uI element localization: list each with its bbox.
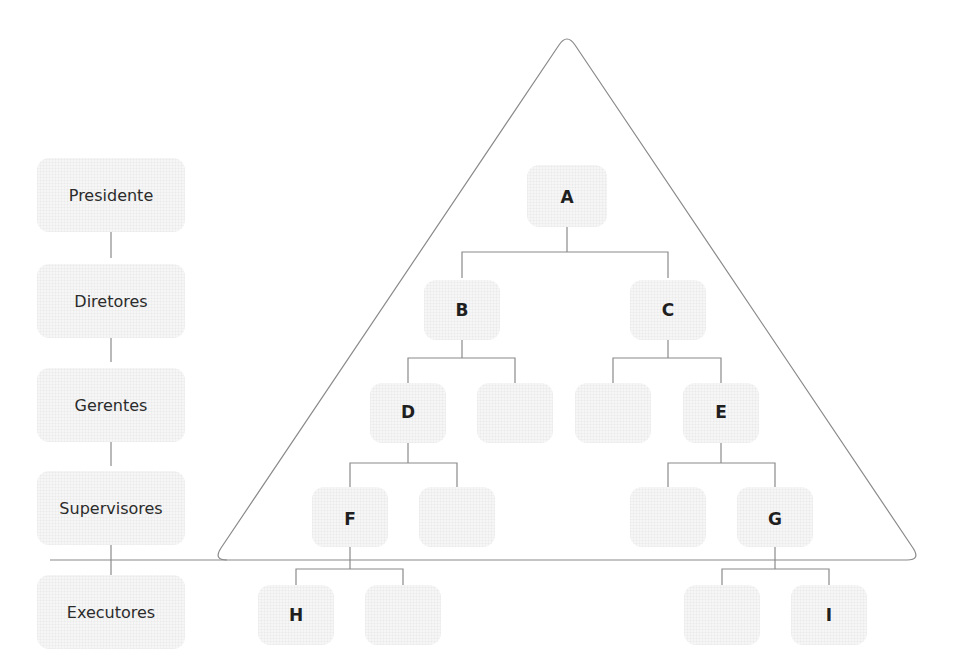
node-label-g: G <box>768 509 782 529</box>
node-label-f: F <box>344 509 356 529</box>
node-label-b: B <box>456 300 469 320</box>
level-label-supervisores: Supervisores <box>59 499 162 518</box>
level-label-executores: Executores <box>67 603 155 622</box>
node-label-d: D <box>401 402 415 422</box>
node-label-a: A <box>560 187 573 207</box>
node-label-e: E <box>715 402 727 422</box>
org-hierarchy-diagram: Presidente Diretores Gerentes Supervisor… <box>0 0 960 667</box>
level-label-presidente: Presidente <box>69 186 153 205</box>
level-label-gerentes: Gerentes <box>75 396 148 415</box>
node-label-i: I <box>826 605 832 625</box>
pyramid-triangle <box>218 39 916 560</box>
level-label-diretores: Diretores <box>74 292 147 311</box>
node-label-h: H <box>289 605 303 625</box>
connector-lines <box>0 0 960 667</box>
node-label-c: C <box>662 300 674 320</box>
